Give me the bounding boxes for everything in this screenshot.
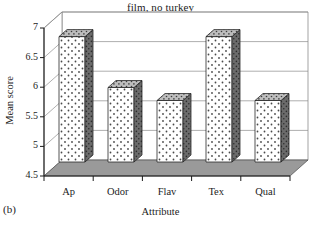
x-tick-qual: Qual: [235, 186, 295, 197]
figure-panel: film, no turkey (b) Mean score Attribute: [0, 0, 321, 225]
x-axis-ticks: Ap Odor Flav Tex Qual: [0, 0, 321, 225]
